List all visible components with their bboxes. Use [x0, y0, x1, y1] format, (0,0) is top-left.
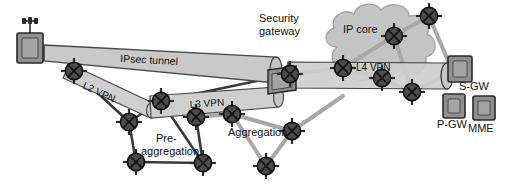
network-diagram: IPsec tunnel L2 VPN L3 VPN L4 VPN	[0, 0, 506, 193]
label-security-gateway-line2: gateway	[259, 25, 300, 37]
label-sgw: S-GW	[459, 80, 490, 92]
label-mme: MME	[468, 122, 494, 134]
pgw-icon	[443, 94, 465, 118]
diagram-canvas: IPsec tunnel L2 VPN L3 VPN L4 VPN	[0, 0, 506, 193]
tunnel-l4vpn: L4 VPN	[288, 62, 453, 89]
label-ip-core: IP core	[343, 23, 378, 35]
label-security-gateway-line1: Security	[259, 12, 299, 24]
label-aggregation: Aggregation	[228, 126, 287, 138]
mme-icon	[473, 96, 495, 120]
label-pre-aggregation-line2: aggregation	[141, 145, 199, 157]
sgw-icon	[448, 56, 472, 82]
label-pre-aggregation-line1: Pre-	[156, 132, 177, 144]
label-pgw: P-GW	[437, 118, 468, 130]
